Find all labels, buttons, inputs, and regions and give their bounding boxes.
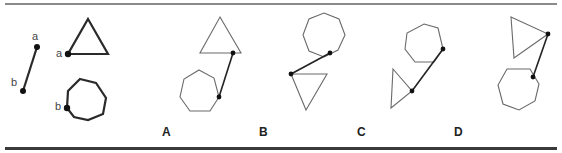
option-a-connector bbox=[219, 53, 233, 97]
option-label-a[interactable]: A bbox=[162, 125, 171, 139]
diagram-canvas bbox=[0, 0, 562, 153]
option-b-point-b bbox=[289, 72, 294, 77]
option-a-heptagon bbox=[180, 70, 219, 111]
option-d-point-a bbox=[546, 32, 551, 37]
segment-label-a: a bbox=[32, 30, 38, 42]
option-c-point-b bbox=[410, 89, 415, 94]
legend-heptagon-point-b bbox=[64, 105, 70, 111]
option-label-b[interactable]: B bbox=[259, 125, 268, 139]
option-c-point-a bbox=[441, 47, 446, 52]
option-d-connector bbox=[533, 34, 548, 77]
legend-segment-point-a bbox=[34, 44, 40, 50]
segment-label-b: b bbox=[11, 76, 17, 88]
option-label-d[interactable]: D bbox=[454, 125, 463, 139]
diagram-stage: a b a b A B C D bbox=[0, 0, 562, 153]
option-a-point-b bbox=[217, 95, 222, 100]
option-b-connector bbox=[291, 53, 330, 74]
triangle-label-a: a bbox=[56, 47, 62, 59]
option-label-c[interactable]: C bbox=[357, 125, 366, 139]
option-a-point-a bbox=[231, 51, 236, 56]
heptagon-label-b: b bbox=[55, 100, 61, 112]
option-b-point-a bbox=[328, 51, 333, 56]
legend-triangle-point-a bbox=[65, 51, 71, 57]
option-d-point-b bbox=[531, 75, 536, 80]
legend-segment-point-b bbox=[20, 88, 26, 94]
option-c-triangle bbox=[391, 69, 412, 108]
option-c-connector bbox=[412, 49, 443, 91]
option-b-triangle bbox=[291, 74, 327, 110]
option-a-triangle bbox=[200, 17, 241, 53]
legend-segment bbox=[23, 47, 37, 91]
legend-heptagon bbox=[67, 79, 106, 120]
option-b-heptagon bbox=[303, 13, 345, 57]
legend-triangle bbox=[68, 19, 108, 54]
